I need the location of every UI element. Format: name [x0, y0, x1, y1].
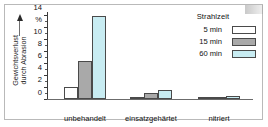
- y-axis-minor-tick: [45, 45, 47, 46]
- y-axis-tick-label: %: [35, 15, 42, 24]
- legend-swatch: [232, 38, 256, 46]
- y-axis-tick: [44, 87, 48, 88]
- x-axis-category-label: nitriert: [208, 114, 229, 123]
- legend-item: 15 min: [170, 36, 256, 47]
- y-axis-tick: [44, 27, 48, 28]
- bar: [130, 97, 144, 99]
- y-axis-tick-label: 4: [38, 63, 42, 72]
- y-axis-minor-tick: [45, 93, 47, 94]
- y-axis-title-group: Gewichtsverlust durch Abrasion: [6, 12, 32, 112]
- legend-item: 60 min: [170, 48, 256, 59]
- y-axis-tick: [44, 15, 48, 16]
- y-axis-title: Gewichtsverlust durch Abrasion: [12, 22, 29, 98]
- y-axis-tick: [44, 51, 48, 52]
- bar: [64, 87, 78, 100]
- y-axis-minor-tick: [45, 21, 47, 22]
- legend-item-label: 60 min: [170, 49, 226, 58]
- y-axis-minor-tick: [45, 69, 47, 70]
- legend-item: 5 min: [170, 24, 256, 35]
- y-axis-line: [47, 12, 48, 100]
- legend-swatch: [232, 26, 256, 34]
- y-axis-tick-label: 0: [38, 87, 42, 96]
- legend-item-label: 15 min: [170, 37, 226, 46]
- x-axis-category-label: einsatzgehärtet: [125, 114, 177, 123]
- y-axis-minor-tick: [45, 33, 47, 34]
- x-axis-category-label: unbehandelt: [64, 114, 106, 123]
- y-axis-tick: [44, 75, 48, 76]
- bar: [158, 90, 172, 99]
- y-axis-tick-label: 6: [38, 51, 42, 60]
- legend-items: 5 min15 min60 min: [170, 24, 256, 59]
- bar: [78, 61, 92, 99]
- y-axis-tick: [44, 99, 48, 100]
- bar: [92, 16, 106, 99]
- bar: [144, 93, 158, 99]
- y-axis-tick-label: 14: [34, 3, 42, 12]
- y-axis-tick-label: 2: [38, 75, 42, 84]
- y-axis-tick: [44, 39, 48, 40]
- scan-artifact: [245, 5, 263, 14]
- bar: [212, 97, 226, 99]
- y-axis-tick-label: 8: [38, 39, 42, 48]
- bar: [198, 97, 212, 99]
- legend-title: Strahlzeit: [170, 12, 256, 21]
- legend-swatch: [232, 50, 256, 58]
- y-axis-tick: [44, 63, 48, 64]
- y-axis-tick-label: 10: [34, 27, 42, 36]
- y-axis-minor-tick: [45, 81, 47, 82]
- abrasion-bar-chart-figure: Gewichtsverlust durch Abrasion 14%108642…: [0, 0, 268, 127]
- legend: Strahlzeit 5 min15 min60 min: [170, 12, 256, 60]
- bar: [226, 96, 240, 100]
- y-axis-minor-tick: [45, 57, 47, 58]
- legend-item-label: 5 min: [170, 25, 226, 34]
- y-axis-title-line2: durch Abrasion: [20, 22, 28, 98]
